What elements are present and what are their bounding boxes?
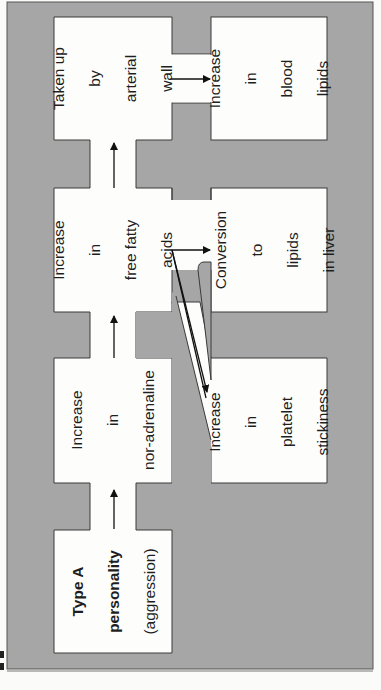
label-arterial-wall: Taken up by arterial wall <box>51 17 174 140</box>
text-line: blood <box>278 49 296 108</box>
text-line: in liver <box>320 211 338 289</box>
page-mark <box>0 651 4 658</box>
text-line: arterial <box>122 47 140 110</box>
label-blood-lipids: Increase in blood lipids <box>207 17 330 140</box>
label-platelet: Increase in platelet stickiness <box>207 360 331 484</box>
text-line: nor-adrenaline <box>140 370 158 470</box>
text-line: in <box>86 220 104 280</box>
label-noradrenaline: Increase in nor-adrenaline <box>53 345 173 495</box>
text-line: Increase <box>50 220 68 280</box>
text-line: Conversion <box>212 211 230 289</box>
text-line: acids <box>158 220 176 280</box>
text-line: wall <box>158 47 176 110</box>
text-line: to <box>248 211 266 289</box>
text-line: free fatty <box>122 220 140 280</box>
text-line: platelet <box>278 388 296 455</box>
text-line: lipids <box>314 49 332 108</box>
text-line: Increase <box>206 49 224 108</box>
label-type-a: Type A personality (aggression) <box>52 530 175 654</box>
text-line-bold: personality <box>104 548 122 634</box>
text-line: lipids <box>284 211 302 289</box>
text-line: Taken up <box>50 47 68 110</box>
text-line: in <box>242 49 260 108</box>
text-line: in <box>242 388 260 455</box>
text-line: in <box>104 370 122 470</box>
text-line: Increase <box>206 388 224 455</box>
text-line: (aggression) <box>140 548 158 634</box>
page-mark <box>0 663 4 670</box>
text-line: stickiness <box>314 388 332 455</box>
label-fatty-acids: Increase in free fatty acids <box>51 188 175 312</box>
text-line: Increase <box>68 370 86 470</box>
text-line: by <box>86 47 104 110</box>
label-liver: Conversion to lipids in liver <box>213 188 337 312</box>
text-line-bold: Type A <box>68 548 86 634</box>
